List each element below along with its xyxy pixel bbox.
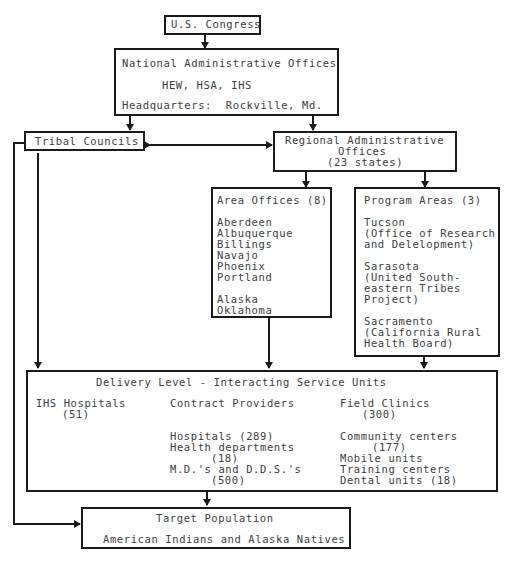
national-offices-box: National Administrative Offices HEW, HSA… <box>114 48 339 116</box>
national-agencies: HEW, HSA, IHS <box>162 80 252 92</box>
field-clinics-count: (300) <box>362 409 397 421</box>
congress-label: U.S. Congress <box>171 19 261 31</box>
area-item: Portland <box>217 272 272 284</box>
tribal-councils-box: Tribal Councils <box>24 131 145 151</box>
delivery-level-box: Delivery Level - Interacting Service Uni… <box>26 370 498 492</box>
tribal-label: Tribal Councils <box>35 136 139 148</box>
regional-line3: (23 states) <box>327 157 403 169</box>
national-headquarters: Headquarters: Rockville, Md. <box>122 100 323 112</box>
field-dental-units: Dental units (18) <box>340 475 458 487</box>
program-title: Program Areas (3) <box>364 195 482 207</box>
contract-providers-label: Contract Providers <box>170 398 295 410</box>
program-desc: Project) <box>364 294 419 306</box>
target-population-box: Target Population American Indians and A… <box>81 507 351 549</box>
area-item: Oklahoma <box>217 305 272 317</box>
area-title: Area Offices (8) <box>217 195 328 207</box>
contract-mds-count: (500) <box>211 475 246 487</box>
congress-box: U.S. Congress <box>164 15 261 35</box>
regional-offices-box: Regional Administrative Offices (23 stat… <box>273 131 457 172</box>
national-title: National Administrative Offices <box>122 58 337 70</box>
program-desc: Health Board) <box>364 338 454 350</box>
program-areas-box: Program Areas (3) Tucson (Office of Rese… <box>354 187 500 357</box>
program-desc: and Delelopment) <box>364 239 475 251</box>
target-title: Target Population <box>156 513 274 525</box>
ihs-hospitals-count: (51) <box>62 409 90 421</box>
target-subtitle: American Indians and Alaska Natives <box>103 534 345 546</box>
area-offices-box: Area Offices (8) Aberdeen Albuquerque Bi… <box>211 187 332 318</box>
delivery-title: Delivery Level - Interacting Service Uni… <box>96 377 387 389</box>
